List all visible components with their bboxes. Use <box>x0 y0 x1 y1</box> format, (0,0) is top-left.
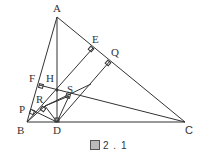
label-D: D <box>53 125 61 136</box>
right-angle-mark-P <box>29 109 34 114</box>
geometry-figure: A E Q F H S R P B D C 2 . 1 <box>0 0 208 162</box>
label-A: A <box>53 3 61 14</box>
point-H-dot <box>56 89 59 92</box>
label-F: F <box>29 73 35 84</box>
label-B: B <box>17 125 24 136</box>
figure-glyph-icon <box>90 140 100 150</box>
label-P: P <box>19 104 25 115</box>
label-S: S <box>67 84 73 95</box>
caption-text: 2 . 1 <box>103 140 127 151</box>
label-Q: Q <box>111 47 119 58</box>
figure-caption: 2 . 1 <box>90 140 127 151</box>
right-angle-mark-R <box>40 106 46 112</box>
label-R: R <box>36 94 43 105</box>
label-E: E <box>92 34 99 45</box>
segment-DP <box>32 110 57 122</box>
label-H: H <box>46 73 54 84</box>
segment-BE <box>27 48 93 122</box>
label-C: C <box>185 125 193 136</box>
